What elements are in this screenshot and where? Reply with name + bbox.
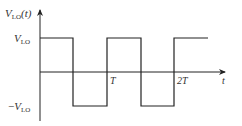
low-level-label: −VLO — [8, 100, 30, 114]
tick-label-T: T — [110, 75, 117, 86]
high-level-label: VLO — [14, 32, 30, 46]
square-wave-diagram: VLO(t) VLO −VLO T 2T t — [0, 0, 242, 126]
x-axis-label: t — [222, 75, 225, 86]
y-axis-label: VLO(t) — [5, 7, 32, 21]
tick-label-2T: 2T — [177, 75, 189, 86]
